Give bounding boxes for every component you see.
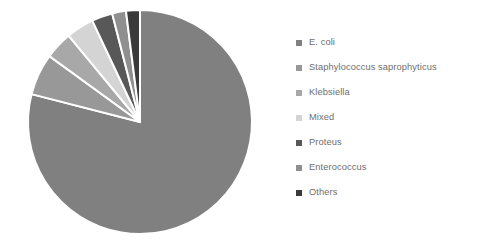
legend-item-label: E. coli [309,37,335,48]
legend-item-staphylococcus-saprophyticus[interactable]: Staphylococcus saprophyticus [296,55,482,80]
legend-item-label: Enterococcus [309,162,366,173]
legend-item-others[interactable]: Others [296,180,482,205]
legend-swatch-icon [296,115,302,121]
legend-item-label: Klebsiella [309,87,350,98]
legend-item-klebsiella[interactable]: Klebsiella [296,80,482,105]
legend-item-e-coli[interactable]: E. coli [296,30,482,55]
pie-chart-svg [0,0,290,245]
legend-item-enterococcus[interactable]: Enterococcus [296,155,482,180]
legend-item-proteus[interactable]: Proteus [296,130,482,155]
legend-swatch-icon [296,140,302,146]
legend-item-mixed[interactable]: Mixed [296,105,482,130]
legend-swatch-icon [296,190,302,196]
legend-swatch-icon [296,40,302,46]
legend-item-label: Proteus [309,137,342,148]
legend-item-label: Staphylococcus saprophyticus [309,62,437,73]
legend-item-label: Others [309,187,337,198]
legend-swatch-icon [296,165,302,171]
pie-chart-plot-area [0,0,290,245]
pie-chart-figure: E. coli Staphylococcus saprophyticus Kle… [0,0,482,245]
pie-slice-group [28,10,252,234]
chart-legend: E. coli Staphylococcus saprophyticus Kle… [296,30,482,205]
legend-swatch-icon [296,90,302,96]
legend-item-label: Mixed [309,112,334,123]
legend-swatch-icon [296,65,302,71]
